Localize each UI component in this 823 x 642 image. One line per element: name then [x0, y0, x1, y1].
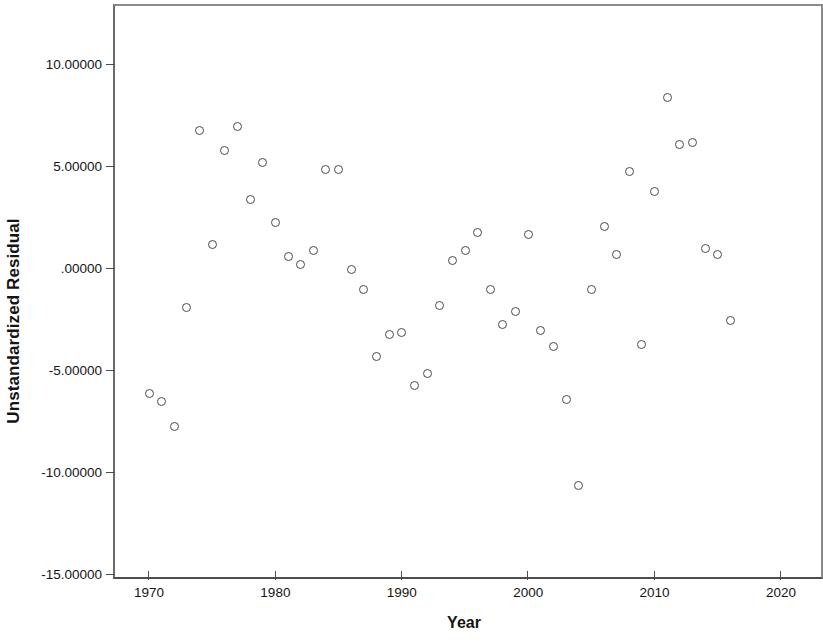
x-axis-tick	[401, 571, 402, 580]
y-axis-tick-label: -5.00000	[49, 364, 102, 378]
y-axis-tick	[106, 64, 115, 65]
y-axis-tick-label: .00000	[61, 262, 102, 276]
y-axis-tick	[106, 268, 115, 269]
y-axis-tick-label: 5.00000	[53, 160, 102, 174]
x-axis-tick-label: 2000	[498, 586, 558, 600]
y-axis-tick	[106, 370, 115, 371]
x-axis-tick-label: 1980	[245, 586, 305, 600]
y-axis-tick	[106, 166, 115, 167]
y-axis-tick-label: -10.00000	[41, 466, 102, 480]
x-axis-tick	[527, 571, 528, 580]
x-axis-tick	[275, 571, 276, 580]
x-axis-tick-label: 1990	[372, 586, 432, 600]
plot-frame	[113, 4, 823, 579]
x-axis-title: Year	[113, 614, 815, 632]
x-axis-tick-label: 2020	[751, 586, 811, 600]
y-axis-tick-label: 10.00000	[46, 58, 102, 72]
x-axis-tick	[780, 571, 781, 580]
y-axis-title: Unstandardized Residual	[0, 0, 28, 642]
x-axis-tick-label: 2010	[625, 586, 685, 600]
y-axis-tick	[106, 574, 115, 575]
x-axis-tick	[148, 571, 149, 580]
x-axis-tick	[654, 571, 655, 580]
x-axis-tick-label: 1970	[119, 586, 179, 600]
y-axis-tick-label: -15.00000	[41, 568, 102, 582]
y-axis-tick	[106, 472, 115, 473]
